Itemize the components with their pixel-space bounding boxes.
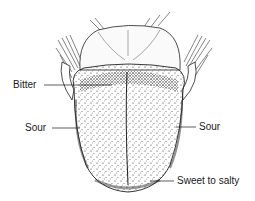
label-sweet-to-salty: Sweet to salty xyxy=(177,176,239,186)
tongue-illustration xyxy=(0,0,255,201)
label-bitter: Bitter xyxy=(13,80,36,90)
label-sour-left: Sour xyxy=(25,123,46,133)
label-sour-right: Sour xyxy=(199,122,220,132)
tongue-diagram: Bitter Sour Sour Sweet to salty xyxy=(0,0,255,201)
